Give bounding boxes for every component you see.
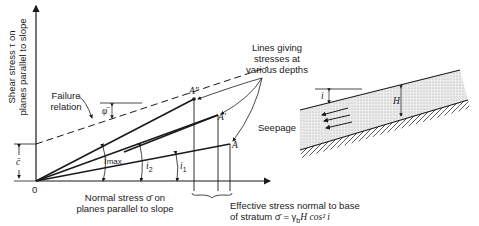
angle-i1-label: i1 bbox=[180, 160, 187, 175]
point-a-double-prime-label: A″ bbox=[189, 86, 199, 97]
x-axis-label: Normal stress σ̄ on planes parallel to s… bbox=[70, 192, 180, 214]
slope-diagram bbox=[300, 70, 470, 158]
point-a-double-prime bbox=[192, 97, 196, 101]
angle-i2-label: i2 bbox=[146, 160, 153, 175]
y-axis-label: Shear stress τ on planes parallel to slo… bbox=[6, 2, 28, 132]
seepage-label: Seepage bbox=[258, 122, 296, 133]
angle-i-max-label: imax bbox=[104, 155, 122, 167]
brace bbox=[192, 193, 232, 198]
origin-label: 0 bbox=[32, 184, 37, 195]
lines-giving-stresses-label: Lines giving stresses at various depths bbox=[232, 42, 322, 75]
slope-angle-label: i bbox=[321, 91, 324, 102]
thickness-label: H bbox=[393, 96, 400, 107]
point-a-prime-label: A′ bbox=[218, 112, 226, 123]
friction-angle-label: φ̄ bbox=[102, 106, 107, 117]
cohesion-label: c̄ bbox=[16, 157, 20, 168]
point-a-label: A bbox=[232, 140, 238, 151]
effective-stress-label: Effective stress normal to base of strat… bbox=[230, 200, 360, 226]
failure-relation-label: Failure relation bbox=[46, 90, 86, 112]
